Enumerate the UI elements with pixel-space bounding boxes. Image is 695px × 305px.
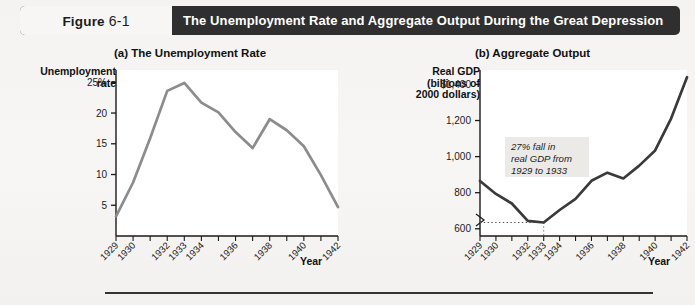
svg-text:800: 800 [454, 187, 471, 198]
svg-text:5: 5 [101, 200, 107, 211]
svg-text:real GDP from: real GDP from [511, 153, 572, 164]
aggregate-output-chart: 6008001,0001,200$1,400192919301932193319… [350, 40, 695, 280]
panel-a-x-axis-caption: Year [300, 255, 322, 267]
figure-title: The Unemployment Rate and Aggregate Outp… [183, 6, 672, 35]
svg-text:1942: 1942 [320, 240, 343, 263]
gdp-fall-annotation: 27% fall inreal GDP from1929 to 1933 [505, 137, 589, 177]
figure-label: Figure 6-1 [62, 13, 129, 29]
unemployment-rate-chart: 510152025%192919301932193319341936193819… [0, 40, 350, 280]
svg-text:1,000: 1,000 [446, 151, 471, 162]
svg-text:20: 20 [96, 108, 108, 119]
svg-text:$1,400: $1,400 [440, 79, 471, 90]
figure-number: 6-1 [109, 13, 130, 29]
svg-text:1930: 1930 [115, 240, 138, 263]
svg-text:1930: 1930 [478, 240, 501, 263]
svg-text:15: 15 [96, 138, 108, 149]
panel-aggregate-output: (b) Aggregate Output Real GDP (billions … [350, 40, 695, 280]
svg-text:10: 10 [96, 169, 108, 180]
svg-text:1936: 1936 [217, 240, 240, 263]
figure-label-word: Figure [62, 14, 104, 29]
svg-text:1,200: 1,200 [446, 115, 471, 126]
svg-text:1938: 1938 [251, 240, 274, 263]
figure-header-bar: Figure 6-1 The Unemployment Rate and Agg… [20, 6, 680, 35]
svg-text:27% fall in: 27% fall in [510, 141, 555, 152]
svg-text:1934: 1934 [183, 240, 206, 263]
svg-text:1929 to 1933: 1929 to 1933 [511, 165, 568, 176]
svg-text:1942: 1942 [669, 240, 692, 263]
panel-unemployment-rate: (a) The Unemployment Rate Unemployment r… [0, 40, 350, 280]
svg-text:1934: 1934 [541, 240, 564, 263]
svg-text:600: 600 [454, 223, 471, 234]
figure-number-tab: Figure 6-1 [20, 6, 172, 35]
svg-text:1938: 1938 [605, 240, 628, 263]
svg-text:25%: 25% [87, 77, 107, 88]
panel-b-x-axis-caption: Year [648, 255, 670, 267]
svg-text:1936: 1936 [573, 240, 596, 263]
bottom-divider-rule [105, 292, 653, 294]
